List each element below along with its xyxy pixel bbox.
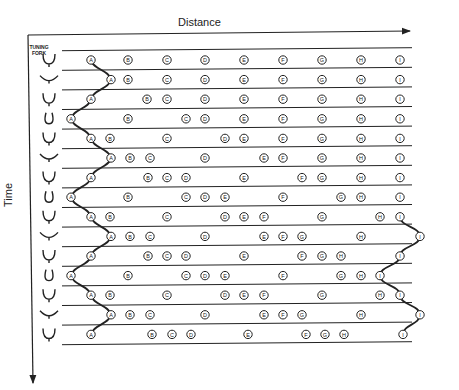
svg-text:G: G — [339, 273, 343, 279]
particle-f: F — [279, 232, 287, 240]
particle-i: I — [396, 193, 404, 201]
svg-text:E: E — [242, 292, 246, 298]
particle-c: C — [163, 134, 171, 142]
particle-h: H — [357, 232, 365, 240]
particle-d: D — [201, 56, 209, 64]
svg-text:G: G — [320, 136, 324, 142]
particles-layer: ABCDEFGHIABCDEFGHIABCDEFGHIABCDEFGHIABCD… — [67, 56, 424, 339]
svg-text:H: H — [359, 175, 363, 181]
svg-text:C: C — [165, 57, 169, 63]
particle-g: G — [318, 213, 326, 221]
particle-a: A — [87, 134, 95, 142]
particle-e: E — [260, 311, 268, 319]
particle-d: D — [182, 173, 190, 181]
tuning-forks-layer — [40, 54, 58, 341]
particle-g: G — [318, 95, 326, 103]
svg-text:H: H — [342, 332, 346, 338]
particle-e: E — [244, 330, 252, 338]
tuning-fork-icon — [43, 132, 55, 145]
particle-b: B — [106, 134, 114, 142]
particle-c: C — [163, 95, 171, 103]
particle-i: I — [396, 95, 404, 103]
particle-i: I — [376, 271, 384, 279]
particle-h: H — [357, 193, 365, 201]
particle-i: I — [396, 56, 404, 64]
tuning-fork-icon — [43, 172, 55, 185]
particle-b: B — [106, 213, 114, 221]
svg-text:C: C — [148, 155, 152, 161]
row-divider — [62, 146, 412, 149]
particle-h: H — [357, 95, 365, 103]
svg-text:E: E — [262, 155, 266, 161]
particle-c: C — [146, 311, 154, 319]
particle-h: H — [340, 330, 348, 338]
svg-text:H: H — [378, 214, 382, 220]
particle-h: H — [357, 75, 365, 83]
particle-e: E — [240, 173, 248, 181]
particle-a: A — [87, 330, 95, 338]
svg-text:B: B — [128, 312, 132, 318]
svg-text:A: A — [69, 273, 73, 279]
svg-text:A: A — [89, 175, 93, 181]
svg-text:G: G — [320, 96, 324, 102]
svg-text:D: D — [223, 214, 227, 220]
svg-text:A: A — [109, 77, 113, 83]
particle-b: B — [124, 115, 132, 123]
svg-text:E: E — [223, 194, 227, 200]
svg-text:A: A — [109, 155, 113, 161]
particle-i: I — [416, 232, 424, 240]
svg-text:B: B — [146, 253, 150, 259]
svg-text:C: C — [165, 253, 169, 259]
tuning-fork-icon — [40, 311, 58, 319]
particle-b: B — [144, 173, 152, 181]
svg-text:E: E — [242, 116, 246, 122]
particle-c: C — [163, 213, 171, 221]
tuning-fork-icon — [43, 54, 55, 67]
svg-text:G: G — [323, 332, 327, 338]
row-divider — [62, 126, 412, 129]
particle-g: G — [318, 252, 326, 260]
svg-text:G: G — [320, 175, 324, 181]
particle-e: E — [240, 252, 248, 260]
particle-i: I — [399, 330, 407, 338]
particle-a: A — [87, 173, 95, 181]
particle-a: A — [87, 95, 95, 103]
svg-text:A: A — [89, 136, 93, 142]
svg-text:D: D — [203, 96, 207, 102]
particle-h: H — [357, 311, 365, 319]
particle-g: G — [321, 330, 329, 338]
row-divider — [62, 205, 412, 208]
row-divider — [62, 263, 412, 266]
svg-text:H: H — [359, 155, 363, 161]
particle-b: B — [124, 75, 132, 83]
svg-text:D: D — [203, 155, 207, 161]
particle-g: G — [318, 291, 326, 299]
particle-e: E — [240, 213, 248, 221]
particle-i: I — [396, 213, 404, 221]
tuning-fork-icon — [43, 328, 55, 341]
particle-a: A — [87, 213, 95, 221]
particle-c: C — [163, 252, 171, 260]
wave-diagram: ABCDEFGHIABCDEFGHIABCDEFGHIABCDEFGHIABCD… — [0, 0, 459, 390]
particle-f: F — [302, 330, 310, 338]
svg-text:A: A — [69, 194, 73, 200]
tuning-fork-icon — [40, 232, 58, 240]
svg-text:B: B — [108, 214, 112, 220]
particle-g: G — [318, 154, 326, 162]
particle-b: B — [126, 311, 134, 319]
particle-a: A — [87, 252, 95, 260]
row-divider — [62, 87, 412, 90]
particle-f: F — [279, 154, 287, 162]
particle-f: F — [298, 173, 306, 181]
particle-e: E — [240, 75, 248, 83]
particle-i: I — [396, 173, 404, 181]
svg-text:E: E — [242, 175, 246, 181]
particle-d: D — [201, 115, 209, 123]
svg-text:A: A — [109, 234, 113, 240]
svg-text:E: E — [242, 253, 246, 259]
svg-text:E: E — [242, 136, 246, 142]
svg-text:H: H — [359, 273, 363, 279]
particle-e: E — [260, 154, 268, 162]
row-divider — [62, 244, 412, 247]
svg-text:B: B — [150, 332, 154, 338]
